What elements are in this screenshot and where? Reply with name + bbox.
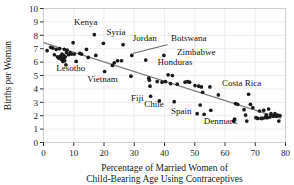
data-point [149,94,153,98]
data-point [244,113,248,117]
x-tick-label: 60 [221,148,231,158]
x-axis-title-line1: Percentage of Married Women of [101,163,229,173]
y-axis-title-text: Births per Woman [3,41,13,110]
country-label-fiji: Fiji [131,93,144,103]
y-tick-label: 5 [34,71,39,81]
x-tick-label: 30 [130,148,140,158]
country-label-lesotho: Lesotho [56,63,85,73]
y-tick-label: 1 [34,124,39,134]
data-point [188,80,192,84]
x-axis-title: Percentage of Married Women ofChild-Bear… [86,163,243,184]
country-label-honduras: Honduras [158,57,193,67]
data-point [160,80,164,84]
data-point [236,102,240,106]
y-axis-tick-labels: 012345678910 [29,4,39,148]
country-label-syria: Syria [107,27,126,37]
data-point [251,106,255,110]
data-point [102,41,106,45]
data-point [209,108,213,112]
data-point [267,107,271,111]
data-point [120,59,124,63]
y-tick-label: 10 [29,4,39,14]
x-tick-label: 50 [190,148,200,158]
country-label-denmark: Denmark [204,116,238,126]
data-point [245,119,249,123]
data-point [277,119,281,123]
grid-lines [44,9,286,143]
data-point [262,108,266,112]
chart-canvas: 012345678910 01020304050607080 KenyaSyri… [0,0,294,185]
country-label-chile: Chile [144,99,164,109]
data-point [247,92,251,96]
x-axis-title-line2: Child-Bearing Age Using Contraceptives [86,174,243,184]
x-tick-label: 10 [69,148,79,158]
y-tick-label: 3 [34,98,39,108]
point-annotations: KenyaSyriaJordanBotswanaZimbabweHonduras… [56,17,261,126]
data-point [80,52,84,56]
x-tick-label: 20 [100,148,110,158]
country-label-jordan: Jordan [133,33,157,43]
data-point [129,74,133,78]
data-point [54,48,58,52]
data-point [51,46,55,50]
y-tick-label: 2 [34,111,39,121]
data-point [195,112,199,116]
data-point [116,59,120,63]
data-point [45,49,49,53]
data-point [86,56,90,60]
data-point [148,84,152,88]
data-point [193,84,197,88]
country-label-kenya: Kenya [74,17,98,27]
data-point [242,108,246,112]
data-point [92,33,96,37]
data-point [65,48,69,52]
data-point [200,85,204,89]
x-tick-label: 80 [281,148,291,158]
data-point [175,82,179,86]
data-point [73,52,77,56]
data-point [71,41,75,45]
data-point [63,55,67,59]
data-point [112,61,116,65]
data-point [198,103,202,107]
country-label-costa-rica: Costa Rica [222,78,261,88]
data-point [94,54,98,58]
y-tick-label: 6 [34,57,39,67]
data-point [258,109,262,113]
data-point [208,85,212,89]
x-tick-label: 40 [160,148,170,158]
scatter-plot-figure: 012345678910 01020304050607080 KenyaSyri… [0,0,294,185]
data-point [155,80,159,84]
data-point [144,58,148,62]
y-tick-label: 9 [34,17,39,27]
data-point [121,43,125,47]
data-point [172,100,176,104]
y-axis-title: Births per Woman [3,41,13,110]
y-tick-label: 0 [34,138,39,148]
x-tick-label: 70 [251,148,261,158]
x-tick-label: 0 [41,148,46,158]
data-point [216,93,220,97]
y-tick-label: 7 [34,44,39,54]
y-tick-label: 4 [34,84,39,94]
data-point [166,73,170,77]
x-axis-tick-labels: 01020304050607080 [41,148,290,158]
data-point [201,90,205,94]
data-point [249,102,253,106]
data-point [148,78,152,82]
data-point [164,80,168,84]
data-point [169,82,173,86]
data-point [130,54,134,58]
data-point [171,74,175,78]
y-tick-label: 8 [34,31,39,41]
x-axis-ticks [44,143,286,147]
country-label-botswana: Botswana [171,33,207,43]
data-point [58,47,62,51]
country-label-zimbabwe: Zimbabwe [177,47,216,57]
y-axis-ticks [40,9,44,143]
country-label-vietnam: Vietnam [87,74,117,84]
country-label-spain: Spain [171,106,192,116]
data-point [278,114,282,118]
data-point [256,117,260,121]
data-point [53,53,57,57]
